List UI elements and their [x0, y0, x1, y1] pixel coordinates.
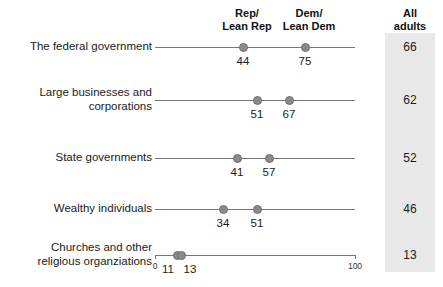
- axis-tick-label: 100: [340, 261, 370, 271]
- all-adults-value: 46: [385, 202, 435, 216]
- data-point-dem: [253, 205, 262, 214]
- all-adults-value: 52: [385, 151, 435, 165]
- all-adults-value: 62: [385, 93, 435, 107]
- row-category-label: Large businesses andcorporations: [0, 86, 152, 113]
- axis-tick: [155, 255, 156, 259]
- dot-plot-chart: Rep/ Lean Rep Dem/ Lean Dem All adults T…: [0, 0, 443, 287]
- row-category-label: Wealthy individuals: [0, 202, 152, 216]
- data-point-value-dem: 51: [237, 217, 277, 229]
- axis-tick-label: 0: [140, 261, 170, 271]
- column-header-all-adults: All adults: [381, 7, 439, 32]
- data-point-dem: [301, 43, 310, 52]
- data-point-value-dem: 13: [170, 263, 210, 275]
- data-point-rep: [239, 43, 248, 52]
- axis-tick: [355, 255, 356, 259]
- data-point-dem: [177, 251, 186, 260]
- data-point-dem: [285, 96, 294, 105]
- all-adults-value: 66: [385, 40, 435, 54]
- row-axis-line: [155, 47, 355, 48]
- row-category-label-line: religious organziations: [0, 255, 152, 269]
- all-adults-value: 13: [385, 248, 435, 262]
- row-category-label: The federal government: [0, 40, 152, 54]
- data-point-rep: [219, 205, 228, 214]
- row-category-label-line: State governments: [0, 151, 152, 165]
- row-category-label: State governments: [0, 151, 152, 165]
- data-point-rep: [253, 96, 262, 105]
- row-category-label-line: The federal government: [0, 40, 152, 54]
- data-point-dem: [265, 154, 274, 163]
- data-point-value-dem: 75: [285, 55, 325, 67]
- data-point-rep: [233, 154, 242, 163]
- data-point-value-dem: 57: [249, 166, 289, 178]
- row-category-label-line: Churches and other: [0, 241, 152, 255]
- row-category-label-line: corporations: [0, 100, 152, 114]
- row-category-label-line: Large businesses and: [0, 86, 152, 100]
- data-point-value-rep: 44: [223, 55, 263, 67]
- column-header-dem-lean-dem: Dem/ Lean Dem: [264, 7, 354, 32]
- column-header-all-line1: All: [381, 7, 439, 20]
- column-header-dem-line2: Lean Dem: [264, 20, 354, 33]
- row-category-label: Churches and otherreligious organziation…: [0, 241, 152, 268]
- column-header-all-line2: adults: [381, 20, 439, 33]
- row-category-label-line: Wealthy individuals: [0, 202, 152, 216]
- row-axis-line: [155, 158, 355, 159]
- column-header-dem-line1: Dem/: [264, 7, 354, 20]
- data-point-value-dem: 67: [269, 108, 309, 120]
